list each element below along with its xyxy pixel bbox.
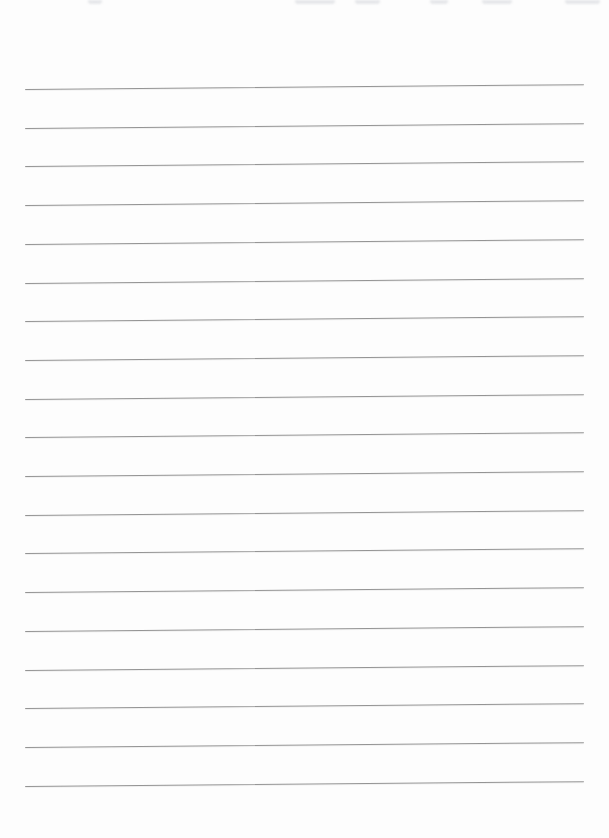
ruled-line [25, 587, 584, 593]
ruled-line [25, 510, 584, 516]
ruled-line [25, 703, 584, 709]
ruled-line [25, 742, 584, 748]
ruled-line [25, 84, 584, 90]
ruled-line [25, 200, 584, 206]
ruled-line [25, 471, 584, 477]
scan-edge-mark [88, 0, 102, 4]
ruled-line [25, 781, 584, 787]
ruled-line [25, 316, 584, 322]
ruled-line [25, 432, 584, 438]
ruled-line [25, 239, 584, 245]
ruled-line [25, 626, 584, 632]
notebook-page [0, 0, 609, 838]
ruled-line [25, 549, 584, 555]
scan-edge-mark [482, 0, 512, 4]
ruled-line [25, 394, 584, 400]
ruled-line [25, 665, 584, 671]
ruled-line [25, 123, 584, 129]
ruled-line [25, 355, 584, 361]
scan-edge-mark [430, 0, 448, 4]
scan-edge-mark [355, 0, 380, 4]
scan-edge-mark [565, 0, 600, 4]
ruled-line [25, 162, 584, 168]
scan-edge-mark [295, 0, 335, 4]
ruled-line [25, 278, 584, 284]
